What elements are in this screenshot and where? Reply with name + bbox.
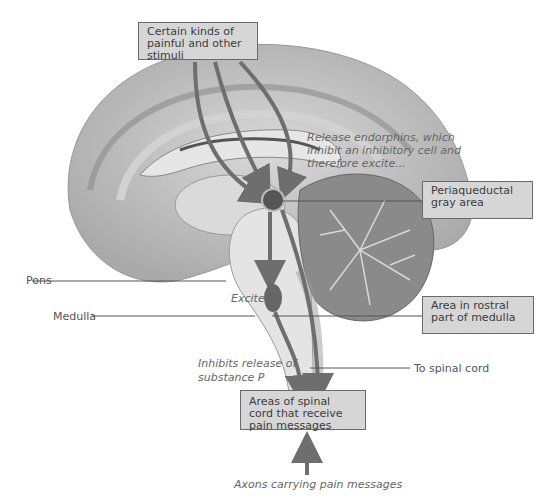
medulla-label: Medulla bbox=[53, 310, 96, 323]
periaqueductal-node bbox=[262, 189, 284, 211]
inhibits-annotation-2: substance P bbox=[198, 371, 264, 384]
to-spinal-cord-label: To spinal cord bbox=[414, 362, 489, 375]
pons-label: Pons bbox=[26, 274, 52, 287]
axons-annotation: Axons carrying pain messages bbox=[234, 478, 402, 491]
rostral-medulla-text: Area in rostral part of medulla bbox=[431, 299, 515, 324]
stimuli-text: Certain kinds of painful and other stimu… bbox=[147, 25, 242, 62]
stimuli-box: Certain kinds of painful and other stimu… bbox=[138, 22, 258, 60]
pain-pathway-diagram: Certain kinds of painful and other stimu… bbox=[0, 0, 551, 502]
periaqueductal-text: Periaqueductal gray area bbox=[431, 184, 513, 209]
endorphins-annotation-3: therefore excite... bbox=[307, 157, 406, 170]
spinal-areas-text: Areas of spinal cord that receive pain m… bbox=[249, 395, 343, 432]
endorphins-annotation-1: Release endorphins, which bbox=[307, 131, 455, 144]
spinal-areas-box: Areas of spinal cord that receive pain m… bbox=[240, 390, 366, 430]
inhibits-annotation-1: Inhibits release of bbox=[198, 357, 296, 370]
periaqueductal-box: Periaqueductal gray area bbox=[422, 181, 533, 219]
excites-annotation: Excites bbox=[231, 292, 270, 305]
endorphins-annotation-2: inhibit an inhibitory cell and bbox=[307, 144, 461, 157]
rostral-medulla-box: Area in rostral part of medulla bbox=[422, 296, 534, 334]
